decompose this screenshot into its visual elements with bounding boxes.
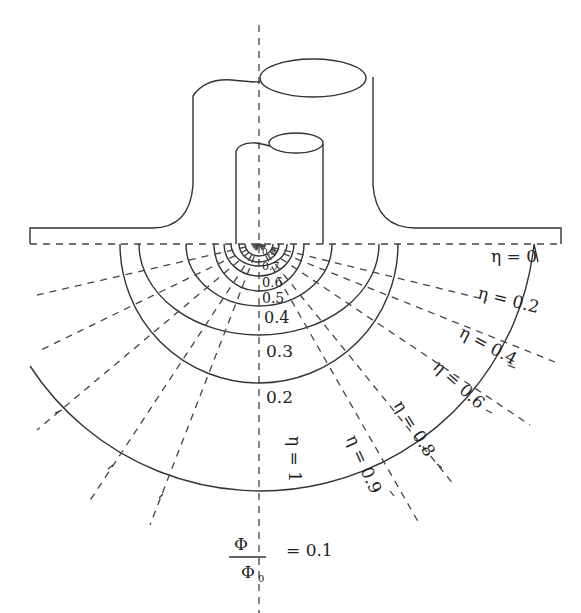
eta-label-0.8: η = 0.8 — [390, 397, 440, 460]
potential-label-0.5: 0.5 — [262, 290, 284, 306]
potential-label-0.3: 0.3 — [266, 341, 293, 361]
potential-label-0.4: 0.4 — [264, 308, 289, 327]
potential-label-0.6: 0.6 — [262, 275, 283, 290]
electrode-field-diagram: 0.8 0.7 0.6 0.5 0.4 0.3 0.2 Φ Φ 0 = 0.1 … — [0, 0, 581, 613]
potential-label-0.8: 0.8 — [262, 247, 277, 257]
svg-text:Φ: Φ — [234, 534, 248, 554]
outer-electrode-outline — [30, 77, 561, 244]
eta-label-0: η = 0 — [491, 246, 537, 266]
svg-text:0: 0 — [258, 573, 264, 584]
inner-cylinder-outline — [236, 143, 323, 244]
svg-text:= 0.1: = 0.1 — [286, 540, 333, 560]
outer-cylinder-top-ellipse — [260, 59, 366, 97]
svg-text:Φ: Φ — [241, 562, 255, 582]
eta-label-0.2: η = 0.2 — [476, 282, 541, 316]
eta-label-1: η = 1 — [285, 436, 305, 482]
equipotential-arcs — [30, 244, 538, 491]
potential-label-0.7: 0.7 — [262, 260, 280, 273]
eta-flux-lines — [33, 244, 555, 525]
potential-label-0.2: 0.2 — [266, 387, 293, 407]
eta-label-0.6: η = 0.6 — [429, 356, 489, 413]
potential-ratio-label: Φ Φ 0 = 0.1 — [229, 534, 333, 584]
inner-cylinder-top-ellipse — [269, 133, 323, 153]
